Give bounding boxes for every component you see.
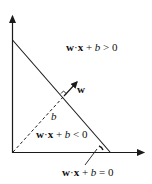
- hyperplane-diagram: w·x + b > 0 w b w·x + b < 0 w·x + b = 0: [0, 0, 152, 184]
- boundary-pointer-arc: [99, 146, 103, 150]
- negative-region-label: w·x + b < 0: [36, 128, 88, 140]
- boundary-leader-line: [85, 149, 97, 165]
- positive-region-label: w·x + b > 0: [66, 41, 118, 53]
- weight-vector-arrow: [64, 82, 77, 96]
- decision-boundary-label: w·x + b = 0: [62, 166, 114, 178]
- bias-label: b: [51, 110, 57, 122]
- weight-vector-label: w: [77, 83, 85, 95]
- bias-distance-dashed-line: [13, 96, 64, 152]
